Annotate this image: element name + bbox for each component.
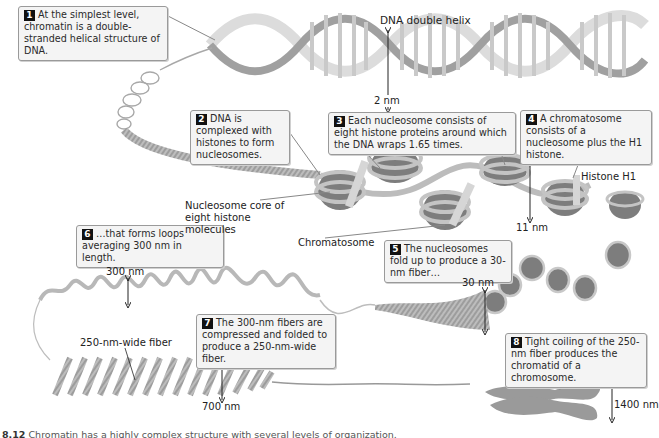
caption-text: Chromatin has a highly complex structure… xyxy=(28,429,396,438)
30nm-fiber xyxy=(320,290,490,332)
caption-number: 8.12 xyxy=(2,429,25,438)
label-250nm-wide-fiber: 250-nm-wide fiber xyxy=(80,337,172,349)
figure-caption: 8.12 Chromatin has a highly complex stru… xyxy=(2,429,397,438)
callout-step-3: 3Each nucleosome consists of eight histo… xyxy=(328,112,516,155)
label-30nm: 30 nm xyxy=(462,277,494,289)
callout-text: The nucleosomes fold up to produce a 30-… xyxy=(390,243,506,278)
label-chromatosome: Chromatosome xyxy=(298,237,374,249)
step-badge: 3 xyxy=(334,116,345,127)
step-badge: 4 xyxy=(526,114,537,125)
callout-step-1: 1At the simplest level, chromatin is a d… xyxy=(18,6,168,61)
label-histone-h1: Histone H1 xyxy=(581,171,636,183)
callout-text: Each nucleosome consists of eight histon… xyxy=(334,115,507,150)
300nm-loops xyxy=(40,268,320,305)
chromosome xyxy=(485,384,612,420)
step-badge: 7 xyxy=(202,318,213,329)
step-badge: 8 xyxy=(511,337,522,348)
dna-double-helix xyxy=(210,13,645,110)
label-11nm: 11 nm xyxy=(516,222,548,234)
label-300nm: 300 nm xyxy=(106,266,144,278)
step-badge: 6 xyxy=(82,229,93,240)
label-nucleosome-core: Nucleosome core of eight histone molecul… xyxy=(185,200,300,236)
callout-text: The 300-nm fibers are compressed and fol… xyxy=(202,317,327,364)
callout-text: …that forms loops averaging 300 nm in le… xyxy=(82,228,184,263)
callout-text: A chromatosome consists of a nucleosome … xyxy=(526,113,642,160)
step-badge: 5 xyxy=(390,244,401,255)
label-dna-double-helix: DNA double helix xyxy=(380,14,471,26)
callout-text: DNA is complexed with histones to form n… xyxy=(196,113,274,160)
label-700nm: 700 nm xyxy=(202,401,240,413)
label-2nm: 2 nm xyxy=(374,95,400,107)
callout-step-2: 2DNA is complexed with histones to form … xyxy=(190,110,290,165)
callout-step-7: 7The 300-nm fibers are compressed and fo… xyxy=(196,314,336,369)
thin-coil-left xyxy=(33,300,50,360)
step-badge: 1 xyxy=(24,10,35,21)
callout-text: At the simplest level, chromatin is a do… xyxy=(24,9,160,56)
callout-step-8: 8Tight coiling of the 250-nm fiber produ… xyxy=(505,333,647,388)
label-1400nm: 1400 nm xyxy=(614,399,659,411)
step-badge: 2 xyxy=(196,114,207,125)
callout-step-4: 4A chromatosome consists of a nucleosome… xyxy=(520,110,652,165)
callout-text: Tight coiling of the 250-nm fiber produc… xyxy=(511,336,639,383)
